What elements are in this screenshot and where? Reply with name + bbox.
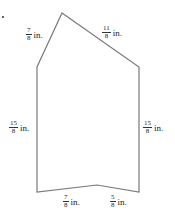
fraction: 7 8 <box>26 27 32 42</box>
polygon-outline <box>37 13 139 192</box>
fraction: 11 8 <box>102 25 111 40</box>
fraction: 7 8 <box>63 194 69 209</box>
label-left: 15 8 in. <box>9 120 29 135</box>
label-top-right: 11 8 in. <box>102 25 122 40</box>
label-right: 15 8 in. <box>143 120 163 135</box>
label-top-left: 7 8 in. <box>26 27 43 42</box>
fraction: 5 8 <box>110 194 116 209</box>
fraction: 15 8 <box>143 120 152 135</box>
label-bottom-right: 5 8 in. <box>110 194 127 209</box>
fraction: 15 8 <box>9 120 18 135</box>
label-bottom-left: 7 8 in. <box>63 194 80 209</box>
